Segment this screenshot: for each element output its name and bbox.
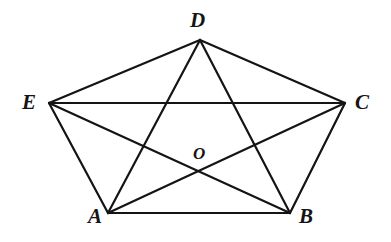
edge-CD xyxy=(200,40,345,103)
geometry-figure: ABCDEO xyxy=(0,0,391,242)
edge-BE xyxy=(49,103,290,213)
vertex-label-e: E xyxy=(22,92,36,113)
edge-AD xyxy=(108,40,200,213)
vertex-label-d: D xyxy=(190,10,205,31)
figure-canvas xyxy=(0,0,391,242)
vertex-label-c: C xyxy=(355,92,369,113)
edge-BC xyxy=(290,103,345,213)
edge-BD xyxy=(200,40,290,213)
edge-EA xyxy=(49,103,108,213)
edge-DE xyxy=(49,40,200,103)
edge-AC xyxy=(108,103,345,213)
vertex-label-b: B xyxy=(299,206,313,227)
vertex-label-o: O xyxy=(193,145,205,162)
vertex-label-a: A xyxy=(88,206,102,227)
